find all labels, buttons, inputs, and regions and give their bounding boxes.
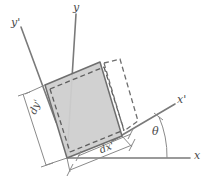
dy-prime-extension-top [25, 85, 45, 94]
axis-label-x: x [194, 150, 200, 161]
axis-label-x-prime: x' [177, 94, 186, 105]
axis-label-y: y [73, 2, 79, 13]
dy-prime-extension-bottom [46, 158, 67, 165]
axis-label-y-prime: y' [11, 17, 20, 28]
theta-arc [159, 117, 167, 158]
angle-label-theta: θ [152, 126, 159, 137]
strain-element-figure: x y x' y' dy' dx' θ [0, 0, 209, 187]
dx-prime-extension-left [67, 158, 70, 172]
